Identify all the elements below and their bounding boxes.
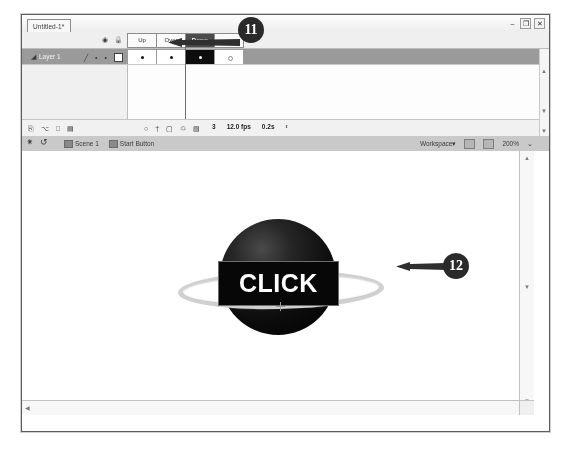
empty-keyframe-icon <box>228 56 233 61</box>
restore-button[interactable]: ❐ <box>520 18 531 29</box>
new-layer-icon[interactable]: ⎘ <box>28 124 34 133</box>
breadcrumb-label: Start Button <box>120 140 154 147</box>
frame-label-up[interactable]: Up <box>127 33 157 48</box>
timeline-status-bar: ⎘ ⌥ ⎕ ▤ ○ † ▢ ♲ ▧ 3 12.0 fps 0.2s ‹ <box>22 119 549 137</box>
breadcrumb-item-scene[interactable]: Scene 1 <box>64 140 99 148</box>
layer-row-icons: ╱ • • <box>84 53 123 62</box>
properties-icon[interactable]: ▤ <box>67 124 74 133</box>
keyframe-dot-icon <box>199 56 202 59</box>
scroll-down-icon[interactable]: ▼ <box>524 283 530 291</box>
breadcrumb: Scene 1 Start Button <box>64 136 154 151</box>
frame-center-icon[interactable]: † <box>155 124 159 133</box>
stage-horizontal-scrollbar[interactable]: ◀ ▶ <box>22 400 534 415</box>
timeline-header: ◉ 🔒 Up Over Down <box>22 32 549 49</box>
edit-bar: ⁕ ↺ Scene 1 Start Button Workspace▾ <box>22 136 549 152</box>
zoom-in-icon[interactable] <box>483 139 494 149</box>
chevron-down-icon[interactable]: ⌄ <box>527 140 533 148</box>
callout-11-arrow <box>168 38 240 47</box>
keyframe-dot-icon <box>141 56 144 59</box>
document-tab[interactable]: Untitled-1* <box>27 19 71 33</box>
current-frame-readout: 3 <box>212 123 216 130</box>
button-symbol-icon <box>109 140 118 148</box>
button-label-plate: CLICK <box>218 261 339 306</box>
playback-tool-buttons: ○ † ▢ ♲ ▧ <box>144 124 200 133</box>
loop-icon[interactable]: ♲ <box>180 124 186 133</box>
timeline-readouts: 3 12.0 fps 0.2s ‹ <box>212 123 288 130</box>
callout-11: 11 <box>238 17 264 43</box>
chevron-down-icon: ▾ <box>452 140 456 147</box>
scroll-left-icon[interactable]: ◀ <box>25 404 30 412</box>
lock-dot-icon[interactable]: • <box>104 53 106 62</box>
callout-12: 12 <box>443 253 469 279</box>
new-folder-icon[interactable]: ⌥ <box>41 124 49 133</box>
onion-skin-icon[interactable]: ○ <box>144 124 148 133</box>
scene-icon <box>64 140 73 148</box>
scroll-down-icon[interactable]: ▼ <box>541 107 547 115</box>
button-label: CLICK <box>219 262 338 305</box>
zoom-out-icon[interactable] <box>464 139 475 149</box>
outline-square-icon[interactable] <box>114 53 123 62</box>
title-bar: Untitled-1* – ❐ ✕ <box>22 15 549 33</box>
scroll-up-icon[interactable]: ▲ <box>541 67 547 75</box>
timeline-panel: ◉ 🔒 Up Over Down ◢ Layer 1 ╱ <box>22 32 549 137</box>
screenshot-root: Untitled-1* – ❐ ✕ ◉ 🔒 Up Over Down <box>0 0 569 449</box>
delete-layer-icon[interactable]: ⎕ <box>56 124 60 133</box>
callout-12-arrow <box>396 262 446 271</box>
zoom-level-value[interactable]: 200% <box>502 140 519 147</box>
visibility-dot-icon[interactable]: • <box>95 53 97 62</box>
modify-markers-icon[interactable]: ▧ <box>193 124 200 133</box>
workspace-label: Workspace <box>420 140 452 147</box>
layer-tool-buttons: ⎘ ⌥ ⎕ ▤ <box>28 124 74 133</box>
stage-vertical-scrollbar[interactable]: ▲ ▼ ▼ <box>519 151 534 415</box>
stage-container: CLICK ▲ ▼ ▼ ◀ ▶ <box>22 151 549 430</box>
application-window: Untitled-1* – ❐ ✕ ◉ 🔒 Up Over Down <box>21 14 550 432</box>
frame-rate-readout[interactable]: 12.0 fps <box>227 123 251 130</box>
edit-multiple-icon[interactable]: ▢ <box>166 124 173 133</box>
overflow-chevron-icon[interactable]: ‹ <box>286 123 288 130</box>
timeline-body[interactable] <box>22 64 549 120</box>
breadcrumb-label: Scene 1 <box>75 140 99 147</box>
back-to-scene-icon[interactable]: ⁕ <box>26 138 34 147</box>
stage-canvas[interactable]: CLICK ▲ ▼ ▼ ◀ ▶ <box>22 151 534 415</box>
scroll-up-icon[interactable]: ▲ <box>524 154 530 162</box>
eye-icon[interactable]: ◉ <box>102 35 108 44</box>
timeline-layer-pane <box>22 65 128 120</box>
breadcrumb-item-symbol[interactable]: Start Button <box>109 140 154 148</box>
timeline-layer-row[interactable]: ◢ Layer 1 ╱ • • <box>22 49 549 64</box>
minimize-button[interactable]: – <box>508 19 517 28</box>
layer-name-label: Layer 1 <box>39 53 61 60</box>
close-button[interactable]: ✕ <box>534 18 545 29</box>
layer-icon: ◢ <box>31 52 36 61</box>
scrollbar-corner <box>519 400 534 415</box>
registration-cross-icon <box>276 302 285 311</box>
window-controls: – ❐ ✕ <box>508 18 545 29</box>
pencil-icon[interactable]: ╱ <box>84 53 88 62</box>
button-artwork[interactable]: CLICK <box>202 219 352 354</box>
keyframe-dot-icon <box>170 56 173 59</box>
scroll-down-icon[interactable]: ▼ <box>541 127 547 135</box>
layer-name-cell[interactable]: ◢ Layer 1 <box>31 49 61 64</box>
edit-bar-right-controls: Workspace▾ 200% ⌄ <box>420 136 533 151</box>
edit-bar-nav-icons: ⁕ ↺ <box>26 138 48 147</box>
lock-icon[interactable]: 🔒 <box>114 35 123 44</box>
edit-scene-icon[interactable]: ↺ <box>40 138 48 147</box>
elapsed-time-readout: 0.2s <box>262 123 275 130</box>
workspace-switcher[interactable]: Workspace▾ <box>420 140 456 148</box>
